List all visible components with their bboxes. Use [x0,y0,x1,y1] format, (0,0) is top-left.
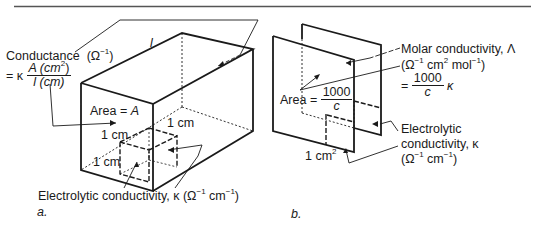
electrolytic-b-line2: conductivity, κ [401,137,479,151]
area-b-denominator: c [321,100,353,113]
area-b-label: Area = 1000 c [280,86,352,113]
molar-unit-c: mol [448,58,472,72]
cm-label-top: 1 cm [101,128,128,142]
fraction-denominator: l (cm) [27,76,72,89]
molar-unit-a: (Ω [401,58,415,72]
electrolytic-b-unit: (Ω−1 cm−1) [401,152,457,166]
electrolytic-b-exp2: −1 [444,150,453,159]
molar-exp3: −1 [472,56,481,65]
molar-eq: = [401,79,408,93]
molar-conductivity-title: Molar conductivity, Λ [401,42,515,56]
electrolytic-b-line1: Electrolytic [401,122,461,136]
molar-unit-d: ) [481,58,485,72]
cm-label-left: 1 cm [93,155,120,169]
electrolytic-a-text: Electrolytic conductivity, κ (Ω [38,189,196,203]
area-a-text: Area = [90,104,131,118]
electrolytic-a-mid: cm [206,189,226,203]
area-a-var: A [131,104,139,118]
area-b-numerator: 1000 [321,86,353,100]
conductance-equation: = κ A (cm2) l (cm) [6,62,71,89]
area-b-fraction: 1000 c [321,86,353,113]
electrolytic-b-exp1: −1 [415,150,424,159]
fraction-numerator: A (cm [29,61,61,75]
caption-b: b. [291,207,301,221]
molar-kappa: κ [447,79,453,93]
molar-unit-b: cm [424,58,444,72]
area-a-label: Area = A [90,104,139,118]
electrolytic-conductivity-a: Electrolytic conductivity, κ (Ω−1 cm−1) [38,189,239,203]
electrolytic-a-close: ) [235,189,239,203]
conductance-unit-exp: −1 [100,47,109,56]
molar-conductivity-equation: = 1000 c κ [401,72,453,99]
caption-a: a. [37,205,47,219]
cm2-label: 1 cm2 [305,149,337,163]
electrolytic-b-unit-a: (Ω [401,152,415,166]
conductance-eq-prefix: = κ [6,69,23,83]
cm-label-right: 1 cm [167,116,194,130]
cm2-exp: 2 [332,147,336,156]
conductance-unit: (Ω [87,49,101,63]
fraction-numerator-close: ) [65,61,69,75]
area-b-text: Area = [280,93,317,107]
electrolytic-b-unit-b: cm [424,152,444,166]
molar-numerator: 1000 [412,72,444,86]
conductance-fraction: A (cm2) l (cm) [27,62,72,89]
cm2-text: 1 cm [305,149,332,163]
conductance-unit-close: ) [109,49,113,63]
electrolytic-b-unit-c: ) [453,152,457,166]
molar-denominator: c [412,86,444,99]
length-label: l [150,36,153,50]
molar-conductivity-unit: (Ω−1 cm2 mol−1) [401,58,485,72]
molar-fraction: 1000 c [412,72,444,99]
electrolytic-a-exp2: −1 [226,187,235,196]
electrolytic-a-exp1: −1 [196,187,205,196]
molar-exp1: −1 [415,56,424,65]
